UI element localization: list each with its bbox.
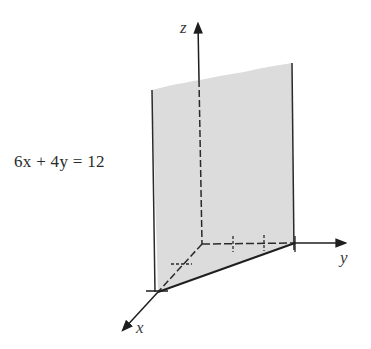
z-axis-upper	[198, 24, 199, 80]
plane-equation-label: 6x + 4y = 12	[14, 152, 105, 172]
x-axis-label: x	[136, 318, 144, 338]
z-axis-label: z	[180, 18, 187, 38]
y-axis-label: y	[340, 248, 348, 268]
y-axis-hidden	[202, 243, 294, 244]
plane-region	[152, 63, 294, 291]
diagram-canvas	[0, 0, 371, 349]
plane-diagram: 6x + 4y = 12 z y x	[0, 0, 371, 349]
